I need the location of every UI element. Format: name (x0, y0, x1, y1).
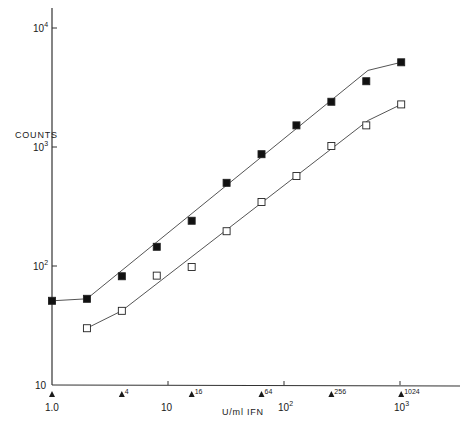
y-axis-label: COUNTS (15, 130, 58, 140)
filled-square-marker (188, 217, 195, 224)
filled-square-marker (258, 151, 265, 158)
x-tick-label: 102 (278, 400, 293, 413)
x-axis-line (52, 385, 460, 386)
y-tick-label: 104 (33, 21, 48, 34)
filled-square-marker (118, 273, 125, 280)
open-square-marker (118, 307, 125, 314)
fit-line (87, 104, 401, 328)
open-square-marker (83, 325, 90, 332)
filled-square-marker (223, 179, 230, 186)
open-square-marker (188, 264, 195, 271)
open-square-marker (258, 198, 265, 205)
axes (49, 8, 460, 397)
filled-square-marker (293, 122, 300, 129)
filled-square-marker (83, 295, 90, 302)
filled-square-marker (363, 78, 370, 85)
fit-lines (52, 62, 401, 328)
data-points (49, 59, 405, 332)
dose-label: 16 (195, 388, 203, 395)
dose-label: 256 (334, 388, 346, 395)
y-tick-label: 10 (35, 380, 47, 391)
open-square-marker (293, 173, 300, 180)
dose-label: 64 (265, 388, 273, 395)
filled-square-marker (153, 243, 160, 250)
filled-square-marker (398, 59, 405, 66)
chart-figure: 101021031041.010102103416642561024 COUNT… (0, 0, 468, 434)
y-tick-label: 103 (33, 140, 48, 153)
dose-triangle-icon (49, 391, 55, 397)
x-tick-label: 1.0 (45, 402, 59, 413)
open-square-marker (153, 272, 160, 279)
filled-square-marker (49, 297, 56, 304)
open-square-marker (328, 142, 335, 149)
filled-square-marker (328, 98, 335, 105)
x-axis-label: U/ml IFN (222, 407, 264, 417)
open-square-marker (363, 122, 370, 129)
open-square-marker (398, 101, 405, 108)
x-tick-label: 10 (161, 402, 173, 413)
dose-label: 1024 (404, 388, 420, 395)
open-square-marker (223, 228, 230, 235)
tick-labels: 101021031041.010102103416642561024 (33, 21, 420, 413)
y-tick-label: 102 (33, 259, 48, 272)
dose-label: 4 (125, 388, 129, 395)
x-tick-label: 103 (394, 400, 409, 413)
